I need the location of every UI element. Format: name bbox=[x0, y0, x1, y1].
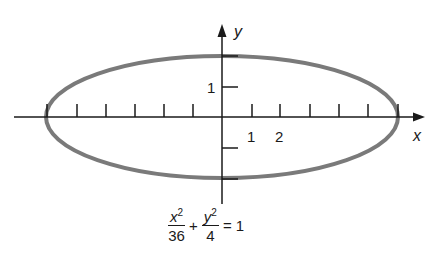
x-tick-label-2: 2 bbox=[275, 128, 283, 145]
x-axis-arrow-icon bbox=[413, 113, 425, 122]
ellipse-equation: x2 36 + y2 4 = 1 bbox=[168, 208, 244, 243]
equation-term-y: y2 4 bbox=[202, 208, 219, 243]
x-tick-label-1: 1 bbox=[247, 128, 255, 145]
y-axis-arrow-icon bbox=[218, 24, 227, 37]
equation-equals: = 1 bbox=[223, 217, 244, 234]
equation-term-x: x2 36 bbox=[168, 208, 185, 243]
y-axis-label: y bbox=[233, 23, 243, 40]
y-tick-label-1: 1 bbox=[207, 79, 215, 96]
equation-plus: + bbox=[189, 217, 198, 234]
x-axis-label: x bbox=[412, 127, 422, 144]
